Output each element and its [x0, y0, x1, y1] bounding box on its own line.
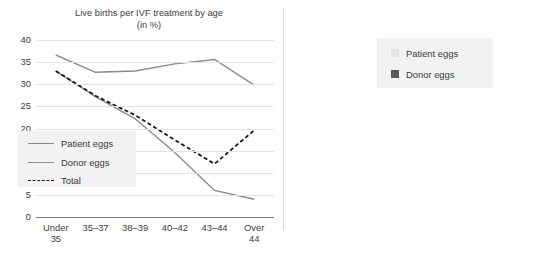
gridline-20 [36, 129, 274, 130]
x-tick-label-2: 38–39 [115, 222, 155, 233]
legend-label-donor-eggs-bar: Donor eggs [406, 69, 454, 80]
legend-item-total[interactable]: Total [28, 173, 81, 187]
footer-caption [8, 252, 542, 261]
legend-label-total: Total [61, 175, 81, 186]
legend-swatch-patient-eggs [391, 49, 399, 57]
legend-line-total [28, 180, 54, 181]
bar-chart-legend: Patient eggs Donor eggs [377, 38, 493, 88]
y-tick-label-5: 5 [6, 190, 31, 200]
line-chart-title: Live births per IVF treatment by age (in… [24, 7, 274, 31]
legend-swatch-donor-eggs [391, 70, 399, 78]
legend-label-patient-eggs: Patient eggs [61, 138, 113, 149]
x-tick-label-5: Over44 [234, 222, 274, 244]
line-chart-panel: Live births per IVF treatment by age (in… [0, 0, 283, 263]
line-chart-legend: Patient eggs Donor eggs Total [18, 131, 136, 187]
x-tick-label-0: Under35 [36, 222, 76, 244]
y-tick-label-30: 30 [6, 79, 31, 89]
line-chart-plot-area: 4035302520151050Under3535–3738–3940–4243… [36, 40, 274, 217]
line-chart-title-line1: Live births per IVF treatment by age [24, 7, 274, 19]
y-tick-label-35: 35 [6, 57, 31, 67]
bar-chart-panel: Share of live births following an IVF tr… [283, 0, 550, 263]
legend-item-donor-eggs-bar[interactable]: Donor eggs [391, 67, 454, 81]
legend-item-donor-eggs[interactable]: Donor eggs [28, 155, 109, 169]
x-tick-label-1: 35–37 [76, 222, 116, 233]
legend-item-patient-eggs-bar[interactable]: Patient eggs [391, 46, 458, 60]
line-series-donor-eggs [56, 55, 254, 85]
legend-line-patient-eggs [28, 143, 54, 144]
gridline-35 [36, 62, 274, 63]
y-tick-label-25: 25 [6, 101, 31, 111]
line-chart-title-line2: (in %) [24, 19, 274, 31]
gridline-30 [36, 84, 274, 85]
gridline-0 [36, 217, 274, 218]
x-tick-label-3: 40–42 [155, 222, 195, 233]
gridline-25 [36, 106, 274, 107]
y-tick-label-40: 40 [6, 35, 31, 45]
gridline-40 [36, 40, 274, 41]
y-tick-label-0: 0 [6, 212, 31, 222]
gridline-5 [36, 195, 274, 196]
legend-label-donor-eggs: Donor eggs [61, 157, 109, 168]
chart-page: Live births per IVF treatment by age (in… [0, 0, 550, 263]
legend-line-donor-eggs [28, 162, 54, 163]
legend-label-patient-eggs-bar: Patient eggs [406, 48, 458, 59]
legend-item-patient-eggs[interactable]: Patient eggs [28, 136, 113, 150]
x-tick-label-4: 43–44 [195, 222, 235, 233]
